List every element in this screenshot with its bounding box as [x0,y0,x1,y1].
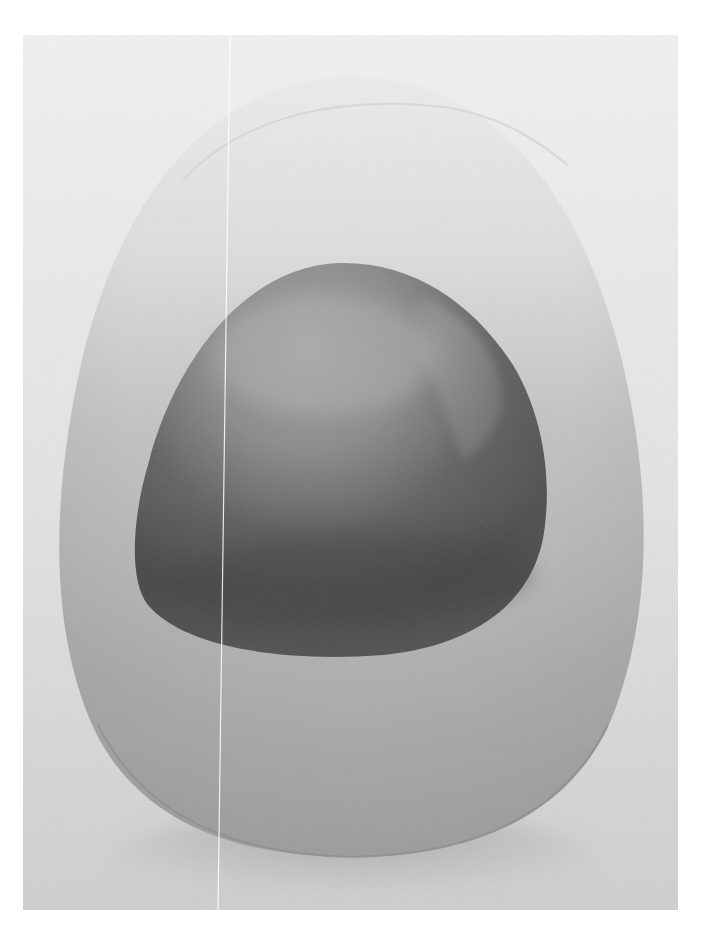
egg-painting [23,35,678,910]
painting-canvas [23,35,678,910]
paint-texture [23,35,678,910]
